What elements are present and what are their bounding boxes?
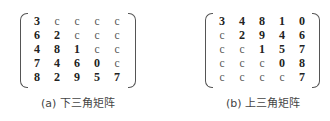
matrix-cell: 0	[272, 56, 292, 70]
matrix-cell: c	[272, 70, 292, 84]
matrix-cell: c	[212, 28, 232, 42]
matrix-grid: 34810c2946cc157ccc08cccc7	[212, 14, 312, 84]
matrix-cell: 8	[292, 56, 312, 70]
matrix-cell: 2	[232, 28, 252, 42]
matrix-cell: 4	[232, 14, 252, 28]
matrix-cell: c	[252, 70, 272, 84]
right-bracket	[312, 13, 320, 88]
matrix-cell: 9	[252, 28, 272, 42]
figure-upper-triangular: 34810c2946cc157ccc08cccc7 (b) 上三角矩阵	[0, 0, 330, 121]
matrix-cell: 4	[272, 28, 292, 42]
matrix-cell: c	[252, 56, 272, 70]
matrix-cell: 7	[292, 70, 312, 84]
matrix-cell: 1	[252, 42, 272, 56]
matrix-cell: 3	[212, 14, 232, 28]
matrix-cell: 7	[292, 42, 312, 56]
matrix-cell: c	[232, 42, 252, 56]
matrix-cell: 1	[272, 14, 292, 28]
matrix-cell: 0	[292, 14, 312, 28]
matrix-cell: 6	[292, 28, 312, 42]
matrix-cell: c	[232, 56, 252, 70]
figure-caption: (b) 上三角矩阵	[226, 94, 300, 110]
matrix-cell: c	[212, 42, 232, 56]
matrix-cell: 5	[272, 42, 292, 56]
matrix-cell: c	[232, 70, 252, 84]
matrix-cell: c	[212, 70, 232, 84]
matrix-cell: c	[212, 56, 232, 70]
matrix-cell: 8	[252, 14, 272, 28]
